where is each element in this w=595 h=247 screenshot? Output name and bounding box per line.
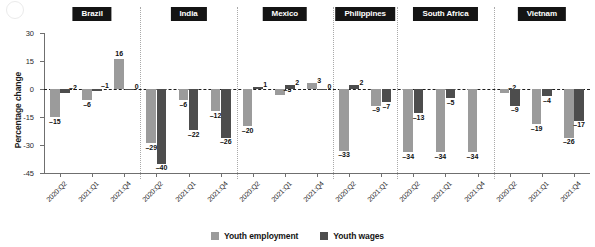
- bar-wages: [349, 85, 359, 89]
- bar-value-label: 0: [327, 83, 331, 90]
- bar-value-label: –15: [49, 118, 61, 125]
- bar-wages: [446, 89, 456, 98]
- bar-value-label: –1: [101, 82, 109, 89]
- y-axis-tick: -45: [40, 173, 44, 174]
- bar-value-label: –34: [467, 153, 479, 160]
- x-axis-tick: [253, 173, 254, 177]
- chart-legend: Youth employmentYouth wages: [0, 231, 595, 241]
- y-axis-tick: 15: [40, 61, 44, 62]
- legend-item-wages[interactable]: Youth wages: [320, 231, 384, 241]
- bar-employment: [82, 89, 92, 100]
- bar-wages: [221, 89, 231, 138]
- bar-wages: [574, 89, 584, 121]
- y-axis-title: Percentage change: [13, 45, 23, 175]
- x-axis-tick: [542, 173, 543, 177]
- panel-divider: [397, 7, 398, 179]
- x-axis-tick: [92, 173, 93, 177]
- x-axis-tick-label: 2021:Q1: [366, 180, 389, 203]
- panel-label-philippines: Philippines: [335, 7, 395, 21]
- panel-divider: [140, 7, 141, 179]
- bar-wages: [510, 89, 520, 106]
- bar-value-label: 16: [115, 50, 123, 57]
- x-axis-tick-label: 2021:Q1: [430, 180, 453, 203]
- plot-area: 30150-15-30-45Brazil2020:Q2–15–22021:Q1–…: [44, 33, 590, 173]
- y-axis-tick-label: -45: [23, 169, 34, 178]
- x-axis-tick: [124, 173, 125, 177]
- panel-divider: [494, 7, 495, 179]
- x-axis-tick: [478, 173, 479, 177]
- panel-label-vietnam: Vietnam: [518, 7, 566, 21]
- x-axis-tick: [156, 173, 157, 177]
- bar-wages: [542, 89, 552, 96]
- bar-value-label: –17: [573, 121, 585, 128]
- x-axis-tick-label: 2021:Q4: [109, 180, 132, 203]
- x-axis-tick-label: 2020:Q2: [141, 180, 164, 203]
- panel-label-india: India: [170, 7, 206, 21]
- bar-wages: [382, 89, 392, 102]
- x-axis-tick-label: 2020:Q2: [495, 180, 518, 203]
- bar-value-label: 2: [295, 79, 299, 86]
- x-axis-tick: [445, 173, 446, 177]
- bar-value-label: –34: [402, 153, 414, 160]
- bar-value-label: –5: [447, 99, 455, 106]
- bar-value-label: –33: [338, 151, 350, 158]
- bar-employment: [403, 89, 413, 152]
- bar-value-label: –7: [382, 103, 390, 110]
- y-axis-tick-label: 30: [26, 29, 34, 38]
- y-axis-tick: 30: [40, 33, 44, 34]
- bar-employment: [371, 89, 381, 106]
- bar-wages: [253, 87, 263, 89]
- bar-value-label: –26: [220, 138, 232, 145]
- bar-value-label: –29: [145, 144, 157, 151]
- y-axis-tick: -30: [40, 145, 44, 146]
- legend-swatch-icon: [211, 232, 219, 240]
- panel-divider: [237, 7, 238, 179]
- bar-value-label: –9: [372, 106, 380, 113]
- bar-wages: [189, 89, 199, 130]
- x-axis-tick-label: 2021:Q4: [463, 180, 486, 203]
- bar-employment: [532, 89, 542, 124]
- x-axis-tick: [574, 173, 575, 177]
- legend-swatch-icon: [320, 232, 328, 240]
- y-axis-tick: -15: [40, 117, 44, 118]
- legend-label: Youth employment: [224, 231, 298, 241]
- panel-divider: [333, 7, 334, 179]
- x-axis-tick: [285, 173, 286, 177]
- bar-value-label: 2: [360, 79, 364, 86]
- bar-employment: [436, 89, 446, 152]
- x-axis-tick: [381, 173, 382, 177]
- bar-value-label: –2: [69, 84, 77, 91]
- x-axis-tick-label: 2021:Q1: [527, 180, 550, 203]
- x-axis-tick: [221, 173, 222, 177]
- bar-employment: [50, 89, 60, 117]
- bar-employment: [564, 89, 574, 138]
- bar-wages: [414, 89, 424, 113]
- bar-employment: [243, 89, 253, 126]
- bar-value-label: –20: [242, 127, 254, 134]
- x-axis-tick-label: 2020:Q2: [45, 180, 68, 203]
- bar-wages: [92, 89, 102, 91]
- x-axis-tick-label: 2021:Q1: [270, 180, 293, 203]
- x-axis-tick-label: 2020:Q2: [238, 180, 261, 203]
- x-axis-tick-label: 2021:Q1: [77, 180, 100, 203]
- legend-label: Youth wages: [333, 231, 384, 241]
- bar-employment: [114, 59, 124, 89]
- bar-value-label: –6: [83, 101, 91, 108]
- bar-wages: [125, 89, 135, 90]
- bar-value-label: –22: [188, 131, 200, 138]
- bar-value-label: –19: [531, 125, 543, 132]
- bar-value-label: 3: [317, 77, 321, 84]
- x-axis-tick: [413, 173, 414, 177]
- bar-value-label: –9: [511, 106, 519, 113]
- x-axis-tick-label: 2021:Q4: [206, 180, 229, 203]
- bar-value-label: –13: [413, 114, 425, 121]
- circle-mark-icon: [6, 1, 24, 19]
- x-axis-tick-label: 2020:Q2: [334, 180, 357, 203]
- bar-value-label: –4: [543, 97, 551, 104]
- y-axis-tick-label: 0: [30, 85, 34, 94]
- panel-label-south-africa: South Africa: [413, 7, 477, 21]
- bar-value-label: –26: [563, 138, 575, 145]
- bar-value-label: –40: [156, 164, 168, 171]
- x-axis-tick: [189, 173, 190, 177]
- legend-item-employment[interactable]: Youth employment: [211, 231, 298, 241]
